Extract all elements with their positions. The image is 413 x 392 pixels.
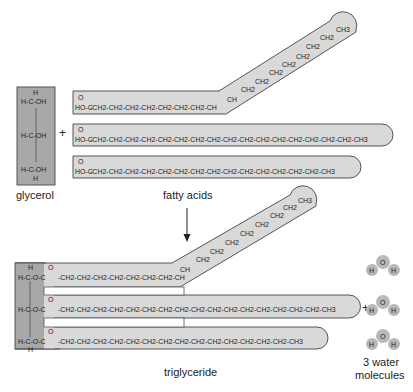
svg-text:CH2: CH2 — [210, 248, 224, 255]
reaction-arrow — [184, 208, 191, 242]
svg-text:CH2: CH2 — [320, 34, 334, 41]
water-molecule-3: O H H — [366, 329, 400, 350]
fatty-acid-2: O HO-C -CH2-CH2-CH2-CH2-CH2-CH2-CH2-CH2-… — [73, 124, 393, 146]
triglyceride-label: triglyceride — [164, 366, 217, 378]
tg-row-2: H-C-O-C — [18, 306, 46, 313]
svg-text:CH2: CH2 — [241, 86, 255, 93]
plus-sign-reactants: + — [59, 126, 66, 140]
tg3-chain: -CH2-CH2-CH2-CH2-CH2-CH2-CH2-CH2-CH2-CH2… — [58, 338, 303, 345]
water-molecule-1: O H H — [366, 255, 400, 276]
svg-text:CH2: CH2 — [255, 78, 269, 85]
fa1-carbonyl-o: O — [78, 94, 84, 101]
tg-bottom-h: H — [28, 346, 33, 353]
svg-text:O: O — [380, 259, 386, 266]
tg1-bent-chain: CH CH2 CH2 CH2 CH2 CH2 CH2 CH2 CH3 — [180, 197, 312, 273]
tg3-carbonyl-o: O — [48, 328, 54, 335]
glycerol-label: glycerol — [16, 189, 54, 201]
tg1-carbonyl-o: O — [48, 264, 54, 271]
svg-text:CH2: CH2 — [283, 204, 297, 211]
svg-text:CH3: CH3 — [298, 197, 312, 204]
glycerol-row-2: H-C-OH — [21, 132, 46, 139]
svg-text:O: O — [380, 333, 386, 340]
glycerol-row-1: H-C-OH — [21, 98, 46, 105]
svg-text:CH2: CH2 — [196, 256, 210, 263]
svg-text:H: H — [369, 267, 374, 274]
fa1-straight-chain: -CH2-CH2-CH2-CH2-CH2-CH2-CH2-CH — [90, 104, 217, 111]
svg-text:CH2: CH2 — [306, 43, 320, 50]
svg-text:CH2: CH2 — [282, 61, 296, 68]
glycerol-top-h: H — [33, 89, 38, 96]
svg-text:CH2: CH2 — [255, 221, 269, 228]
tg-top-h: H — [28, 264, 33, 271]
fatty-acids-label: fatty acids — [163, 189, 213, 201]
tg1-chain: -CH2-CH2-CH2-CH2-CH2-CH2-CH2-CH — [58, 274, 185, 281]
glycerol-molecule: H H-C-OH H-C-OH H-C-OH H — [17, 87, 55, 185]
fa1-bent-chain: CH CH2 CH2 CH2 CH2 CH2 CH2 CH2 CH3 — [227, 26, 350, 103]
svg-text:H: H — [369, 307, 374, 314]
fa2-chain: -CH2-CH2-CH2-CH2-CH2-CH2-CH2-CH2-CH2-CH2… — [90, 136, 368, 143]
glycerol-bottom-h: H — [33, 175, 38, 182]
svg-text:H: H — [391, 307, 396, 314]
fatty-acid-3: O HO-C -CH2-CH2-CH2-CH2-CH2-CH2-CH2-CH2-… — [73, 156, 361, 178]
tg2-chain: -CH2-CH2-CH2-CH2-CH2-CH2-CH2-CH2-CH2-CH2… — [58, 306, 336, 313]
water-label-line2: molecules — [355, 369, 405, 381]
svg-text:H: H — [391, 341, 396, 348]
svg-text:H: H — [369, 341, 374, 348]
svg-text:CH3: CH3 — [336, 26, 350, 33]
svg-text:CH2: CH2 — [225, 239, 239, 246]
svg-text:CH2: CH2 — [240, 230, 254, 237]
tg2-carbonyl-o: O — [48, 296, 54, 303]
triglyceride-formation-diagram: H H-C-OH H-C-OH H-C-OH H glycerol + O HO… — [0, 0, 413, 392]
fa2-carbonyl-o: O — [78, 126, 84, 133]
water-molecule-2: O H H — [366, 295, 400, 316]
fatty-acid-1: O HO-C -CH2-CH2-CH2-CH2-CH2-CH2-CH2-CH C… — [73, 12, 357, 114]
fa3-carbonyl-o: O — [78, 158, 84, 165]
svg-text:CH: CH — [180, 266, 190, 273]
svg-text:CH2: CH2 — [296, 53, 310, 60]
glycerol-row-3: H-C-OH — [21, 166, 46, 173]
svg-text:CH2: CH2 — [270, 212, 284, 219]
svg-text:CH2: CH2 — [269, 69, 283, 76]
svg-text:CH: CH — [227, 96, 237, 103]
water-label-line1: 3 water — [363, 356, 399, 368]
triglyceride-molecule: H H-C-O-C H-C-O-C H-C-O-C H O -CH2-CH2-C… — [15, 186, 361, 353]
fa3-chain: -CH2-CH2-CH2-CH2-CH2-CH2-CH2-CH2-CH2-CH2… — [90, 168, 335, 175]
tg-row-3: H-C-O-C — [18, 338, 46, 345]
svg-text:O: O — [380, 299, 386, 306]
svg-text:H: H — [391, 267, 396, 274]
tg-row-1: H-C-O-C — [18, 274, 46, 281]
